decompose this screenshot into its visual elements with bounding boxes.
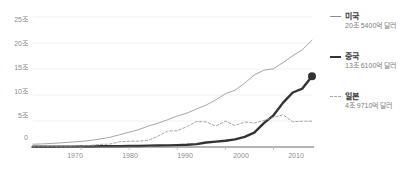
legend-series-value: 4조 9710억 달러 bbox=[345, 100, 392, 110]
x-axis-label: 1980 bbox=[115, 152, 145, 159]
gdp-line-chart: 25조20조15조10조5조0 19701980199020002010 미국2… bbox=[0, 0, 404, 176]
legend-series-value: 13조 6100억 달러 bbox=[345, 60, 396, 70]
legend-swatch-icon bbox=[330, 96, 341, 97]
series-endpoint-marker-1 bbox=[308, 72, 316, 80]
y-axis-label: 5조 bbox=[2, 110, 28, 120]
data-series-group bbox=[33, 40, 316, 147]
series-line-0 bbox=[33, 40, 312, 144]
y-axis-label: 10조 bbox=[2, 86, 28, 96]
x-axis-label: 1970 bbox=[60, 152, 90, 159]
y-axis-label: 20조 bbox=[2, 38, 28, 48]
chart-plot-area bbox=[0, 0, 404, 176]
legend-swatch-icon bbox=[330, 16, 341, 17]
legend-swatch-icon bbox=[330, 56, 341, 58]
x-axis-label: 1990 bbox=[170, 152, 200, 159]
y-axis-label: 0 bbox=[2, 134, 28, 141]
y-axis-label: 25조 bbox=[2, 14, 28, 24]
x-axis-label: 2000 bbox=[226, 152, 256, 159]
y-axis-label: 15조 bbox=[2, 62, 28, 72]
axis-lines bbox=[31, 147, 314, 150]
x-axis-label: 2010 bbox=[281, 152, 311, 159]
series-line-1 bbox=[33, 76, 312, 147]
legend-series-value: 20조 5400억 달러 bbox=[345, 20, 396, 30]
